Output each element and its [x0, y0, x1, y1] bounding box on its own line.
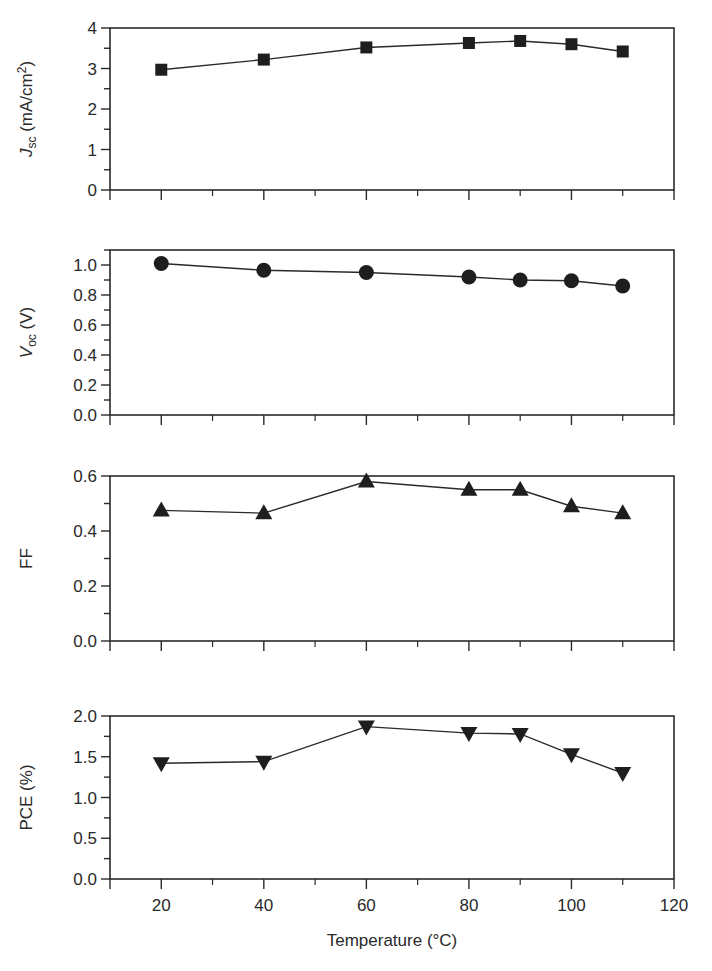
- panel-voc: 0.00.20.40.60.81.0Voc (V): [17, 250, 674, 425]
- panel-pce: 0.00.51.01.52.0PCE (%)20406080100120: [17, 707, 688, 915]
- y-tick-label: 3: [88, 60, 97, 79]
- y-tick-label: 1: [88, 141, 97, 160]
- y-tick-label: 2.0: [73, 707, 97, 726]
- panel-ff: 0.00.20.40.6FF: [17, 467, 674, 651]
- data-point-marker: [514, 35, 526, 47]
- y-tick-label: 0: [88, 181, 97, 200]
- y-tick-label: 0.4: [73, 346, 97, 365]
- data-point-marker: [255, 756, 272, 771]
- y-axis-label: Jsc (mA/cm2): [15, 61, 39, 158]
- y-tick-label: 1.0: [73, 256, 97, 275]
- data-line: [161, 727, 622, 773]
- data-point-marker: [564, 273, 579, 288]
- plot-frame: [110, 476, 674, 641]
- data-point-marker: [359, 265, 374, 280]
- data-point-marker: [258, 54, 270, 66]
- data-point-marker: [513, 273, 528, 288]
- plot-frame: [110, 28, 674, 190]
- data-point-marker: [153, 757, 170, 772]
- y-tick-label: 1.5: [73, 748, 97, 767]
- data-line: [161, 41, 622, 70]
- y-tick-label: 0.2: [73, 376, 97, 395]
- data-point-marker: [153, 501, 170, 516]
- y-tick-label: 4: [88, 19, 97, 38]
- data-point-marker: [614, 767, 631, 782]
- data-line: [161, 482, 622, 514]
- data-point-marker: [615, 279, 630, 294]
- y-tick-label: 0.6: [73, 316, 97, 335]
- data-point-marker: [512, 481, 529, 496]
- y-axis-label: PCE (%): [17, 764, 36, 830]
- y-tick-label: 0.2: [73, 577, 97, 596]
- y-tick-label: 0.4: [73, 522, 97, 541]
- plot-frame: [110, 250, 674, 415]
- y-tick-label: 0.0: [73, 870, 97, 889]
- y-tick-label: 0.6: [73, 467, 97, 486]
- data-point-marker: [460, 481, 477, 496]
- data-point-marker: [460, 727, 477, 742]
- x-tick-label: 40: [254, 896, 273, 915]
- data-point-marker: [512, 728, 529, 743]
- data-point-marker: [360, 41, 372, 53]
- y-tick-label: 0.0: [73, 632, 97, 651]
- y-tick-label: 1.0: [73, 789, 97, 808]
- data-point-marker: [461, 270, 476, 285]
- y-tick-label: 0.8: [73, 286, 97, 305]
- x-tick-label: 80: [459, 896, 478, 915]
- figure: 01234Jsc (mA/cm2)0.00.20.40.60.81.0Voc (…: [0, 0, 712, 971]
- x-tick-label: 60: [357, 896, 376, 915]
- y-tick-label: 0.0: [73, 406, 97, 425]
- x-tick-label: 20: [152, 896, 171, 915]
- panel-jsc: 01234Jsc (mA/cm2): [15, 19, 674, 200]
- data-point-marker: [358, 473, 375, 488]
- y-tick-label: 2: [88, 100, 97, 119]
- x-tick-label: 120: [660, 896, 688, 915]
- x-axis-label: Temperature (°C): [327, 931, 458, 950]
- y-tick-label: 0.5: [73, 829, 97, 848]
- data-line: [161, 264, 622, 287]
- x-tick-label: 100: [557, 896, 585, 915]
- data-point-marker: [154, 256, 169, 271]
- data-point-marker: [565, 38, 577, 50]
- y-axis-label: Voc (V): [17, 307, 39, 358]
- y-axis-label: FF: [17, 548, 36, 569]
- data-point-marker: [463, 37, 475, 49]
- plot-frame: [110, 716, 674, 879]
- data-point-marker: [155, 64, 167, 76]
- data-point-marker: [256, 263, 271, 278]
- data-point-marker: [617, 45, 629, 57]
